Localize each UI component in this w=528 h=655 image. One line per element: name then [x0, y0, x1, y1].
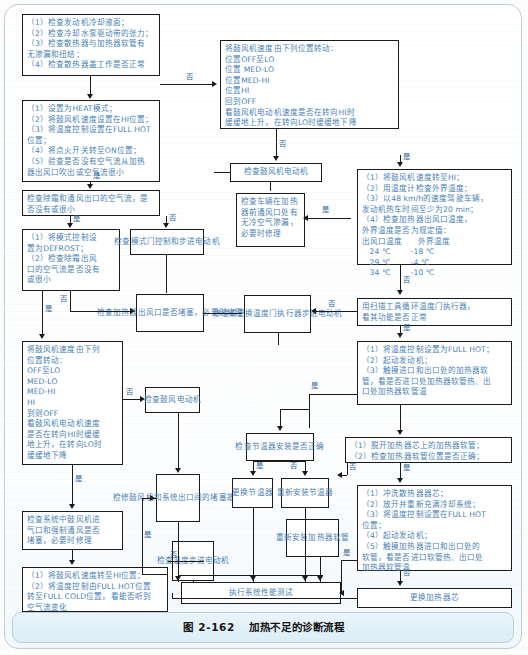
conn-b22-b16	[313, 311, 357, 312]
box-line: MED-HI	[27, 387, 118, 398]
box-line: （1）将模式控制设	[27, 233, 115, 244]
box-line: 看其功能是否正常	[362, 313, 507, 324]
box-line: 地上升，在转向LO时	[27, 440, 118, 451]
box-line: 度门执行器步	[261, 309, 310, 320]
box-line: 热器软管	[317, 533, 349, 544]
box-line: 将鼓风机速度由下列	[27, 345, 118, 356]
box-line: 位置HI	[225, 86, 394, 97]
box-line: 检查模式门控制	[114, 237, 171, 248]
box-line: （4）起动发动机；	[362, 531, 507, 542]
box-line: 缓缓地下降	[27, 451, 118, 462]
box-line: 软管，看是否进口软管热、出口处	[362, 553, 507, 564]
box-blower-motor-left: 检查鼓风电动机	[145, 387, 200, 413]
box-line: 节温器	[309, 488, 333, 499]
label-no-b25-b26: 否	[403, 569, 410, 577]
table-row: 24 ℃ -18 ℃	[362, 247, 507, 258]
box-line: （5）验查是否没有空气流从加热	[27, 157, 155, 168]
box-line: （2）检查除霜出风	[27, 254, 115, 265]
box-line: （3）将温度控制设置在FULL HOT	[27, 125, 155, 136]
box-line: （1）设置为HEAT模式；	[27, 104, 155, 115]
conn-b25-left	[341, 560, 357, 561]
box-line: 执行系统性能测试	[229, 588, 294, 599]
box-line: 检查系统中鼓风机进	[27, 515, 118, 526]
arrow-b2-b3	[87, 184, 93, 189]
label-no-b3-b8: 否	[169, 214, 176, 222]
box-line: 外界温度是否为规定值：	[362, 226, 507, 237]
box-line: 位置转动：	[27, 356, 118, 367]
table-header-row: 出风口温度 外界温度	[362, 237, 507, 248]
box-line: （4）检查加热器出风口温度，	[362, 215, 507, 226]
table-row: 29 ℃ -4 ℃	[362, 258, 507, 269]
conn-to-b17-h	[280, 409, 309, 410]
conn-b5-b10	[123, 399, 141, 400]
box-replace-heater-core: 更换加热器芯	[357, 588, 512, 608]
box-line: 装是否正确	[284, 442, 325, 453]
label-no-b7-b12: 否	[170, 551, 177, 559]
box-line: （2）用温度计检查外界温度；	[362, 184, 507, 195]
box-full-hot-touch-hose: （1）将温度控制设置为FULL HOT；（2）起动发动机；（3）触摸进口和出口处…	[357, 341, 512, 405]
conn-b23-b24	[400, 405, 401, 431]
label-no-b21-b22: 否	[403, 276, 410, 284]
label-yes-b15: 是	[322, 206, 329, 214]
box-line: 出口间的	[178, 493, 210, 504]
arrow-b24-b20	[337, 472, 342, 478]
conn-b14-left	[214, 172, 230, 173]
box-coolant-check: （1）检查发动机冷却液面；（2）检查冷却水泵驱动带的张力；（3）检查散热器与加热…	[22, 14, 160, 76]
box-line: 转至FULL COLD位置，看能否听到	[27, 592, 163, 603]
conn-b11-bus	[178, 522, 179, 582]
box-repair-replace-temp-door: 修理或更换温度门执行器步进电动机	[244, 295, 311, 333]
box-line: 位置MED-HI	[225, 76, 394, 87]
box-line: 加热器软管温	[362, 563, 507, 574]
arrow-b4-b5	[39, 334, 45, 339]
box-line: 到则OFF	[27, 409, 118, 420]
arrow-b20-bus	[317, 576, 323, 581]
label-yes-b23-left: 是	[311, 382, 318, 390]
box-line: 口的空气流是否没有	[27, 265, 115, 276]
conn-b14-b15	[270, 182, 271, 191]
label-yes-b2-b3: 是	[93, 172, 100, 180]
conn-b13-b14	[276, 129, 277, 158]
box-line: 检查加热器出风	[97, 308, 154, 319]
arrow-b6-b7	[69, 560, 75, 565]
box-line: （4）检查散热器盖工作是否正常	[27, 60, 155, 71]
conn-b23-left	[309, 394, 357, 395]
box-replace-thermostat: 更换节温器	[232, 478, 273, 508]
box-flush-heater-core: （1）冲洗散热器器芯；（2）放开并重新充满冷却系统；（3）将温度控制设置在FUL…	[357, 485, 512, 571]
box-check-system-blocked: 检查系统中鼓风机进气口和强制通风是否堵塞，必要时修理	[22, 511, 123, 550]
box-text-lines: （1）将鼓风机速度转至HI；（2）用温度计检查外界温度；（3）以48 km/h的…	[362, 173, 507, 237]
box-line: 器前通风口处有	[241, 208, 300, 219]
box-heater-outlet-blocked: 检查加热器出风口是否堵塞，必要时修理	[136, 294, 204, 332]
box-line: OFF至LO	[27, 366, 118, 377]
label-no-b24-b20: 否	[349, 463, 356, 471]
arrow-b5-b6	[69, 504, 75, 509]
box-line: 检查除霜和通风出口的空气流，是	[27, 194, 155, 205]
figure-title: 加热不足的诊断流程	[249, 621, 344, 633]
label-no-b13-b14: 否	[279, 140, 286, 148]
box-line: 节温器	[248, 488, 272, 499]
arrow-b13-b14	[273, 156, 279, 161]
box-line: （2）放开并重新充满冷却系统；	[362, 500, 507, 511]
conn-b23-left-down	[309, 394, 310, 428]
box-defrost-vent-airflow: 检查除霜和通风出口的空气流，是否没有或很小	[22, 190, 160, 216]
box-line: （1）脱开加热器芯上的加热器软管；	[350, 441, 507, 452]
label-no-b5-b10: 否	[126, 388, 133, 396]
box-detach-heater-hose: （1）脱开加热器芯上的加热器软管；（2）检查加热器软管位置是否正确；	[345, 437, 512, 463]
box-line: 口处加热器软管温	[362, 387, 507, 398]
arrow-b10-b11	[175, 468, 181, 473]
box-line: （2）将鼓风机速度设置在HI位置；	[27, 115, 155, 126]
conn-b16-down	[278, 333, 279, 345]
arrow-b11-bus	[175, 576, 181, 581]
box-mode-door-control: 检查模式门控制和步进电动机	[130, 229, 204, 255]
box-line: 口是否堵塞，必	[154, 308, 211, 319]
arrow-b1-b2	[87, 94, 93, 99]
box-line: 用扫描工具循环温度门执行器，	[362, 302, 507, 313]
label-yes-b4-b5: 是	[45, 305, 52, 313]
box-line: 位置OFF至LO	[225, 55, 394, 66]
box-line: （3）以48 km/h的速度驾驶车辆，	[362, 194, 507, 205]
box-line: （5）触摸加热器进口和出口处的	[362, 542, 507, 553]
box-line: 检查节温器安	[235, 442, 284, 453]
conn-b4-down	[70, 291, 71, 311]
conn-b15-b21	[305, 218, 351, 219]
figure-number: 图 2-162	[183, 621, 234, 633]
arrow-b24-b25	[397, 478, 403, 483]
